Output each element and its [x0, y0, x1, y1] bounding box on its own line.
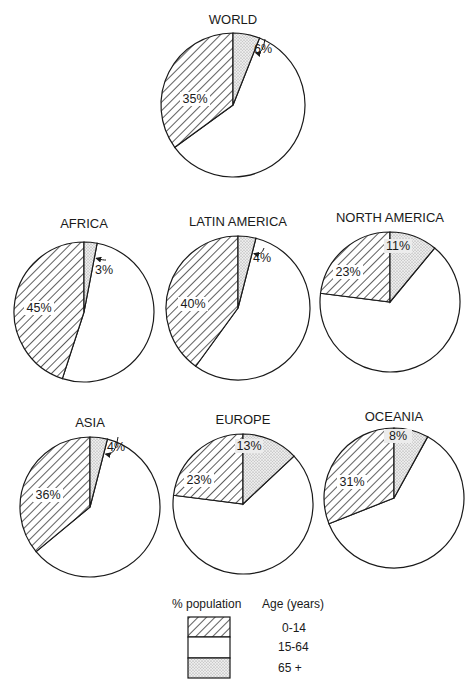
- population-pie-charts: WORLD35%6%AFRICA45%3%LATIN AMERICA40%4%N…: [0, 0, 474, 693]
- pie-africa: AFRICA45%3%: [14, 216, 154, 382]
- label-65-plus: 13%: [236, 439, 261, 453]
- pie-title: NORTH AMERICA: [336, 210, 444, 225]
- legend-label-65-plus: 65 +: [278, 661, 302, 675]
- legend: % population Age (years) 0-14 15-64 65 +: [172, 597, 324, 678]
- pie-title: ASIA: [75, 415, 105, 430]
- legend-label-0-14: 0-14: [282, 621, 306, 635]
- legend-header-age: Age (years): [262, 597, 324, 611]
- pie-title: OCEANIA: [365, 409, 424, 424]
- legend-swatch-white: [188, 637, 230, 658]
- label-65-plus: 8%: [389, 429, 407, 443]
- label-65-plus: 3%: [95, 263, 113, 277]
- label-0-14: 35%: [182, 92, 207, 106]
- pie-asia: ASIA36%4%: [20, 415, 160, 577]
- label-0-14: 23%: [186, 473, 211, 487]
- pie-europe: EUROPE23%13%: [173, 412, 313, 574]
- pie-title: EUROPE: [216, 412, 271, 427]
- legend-label-15-64: 15-64: [278, 640, 309, 654]
- label-65-plus: 6%: [254, 42, 272, 56]
- pie-north-america: NORTH AMERICA23%11%: [320, 210, 460, 372]
- pie-latin-america: LATIN AMERICA40%4%: [166, 214, 310, 380]
- label-0-14: 45%: [26, 301, 51, 315]
- label-0-14: 36%: [35, 488, 60, 502]
- label-0-14: 40%: [180, 297, 205, 311]
- pie-title: LATIN AMERICA: [189, 214, 287, 229]
- legend-header-percent: % population: [172, 597, 241, 611]
- legend-swatch-hatched: [188, 617, 230, 637]
- slice-0-14: [174, 434, 243, 504]
- legend-swatch-dotted: [188, 658, 230, 678]
- pie-world: WORLD35%6%: [161, 12, 305, 177]
- pie-title: AFRICA: [60, 216, 108, 231]
- pie-oceania: OCEANIA31%8%: [324, 409, 464, 568]
- label-65-plus: 11%: [386, 239, 410, 253]
- label-0-14: 23%: [335, 265, 360, 279]
- label-0-14: 31%: [339, 475, 364, 489]
- pie-title: WORLD: [209, 12, 257, 27]
- label-65-plus: 4%: [253, 251, 271, 265]
